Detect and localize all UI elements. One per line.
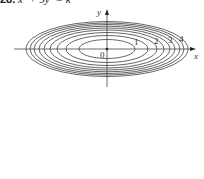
origin-dot — [106, 48, 109, 51]
level-label-3: 3 — [168, 35, 173, 45]
level-label-2: 2 — [154, 36, 159, 46]
x-axis-label: x — [193, 51, 198, 61]
level-label-4: 4 — [179, 34, 184, 44]
y-axis-label: y — [96, 7, 101, 17]
contour-plot: y x 0 1 2 3 4 — [0, 0, 204, 179]
y-axis-arrow-icon — [105, 9, 109, 15]
level-label-1: 1 — [134, 37, 139, 47]
origin-label: 0 — [100, 50, 105, 60]
